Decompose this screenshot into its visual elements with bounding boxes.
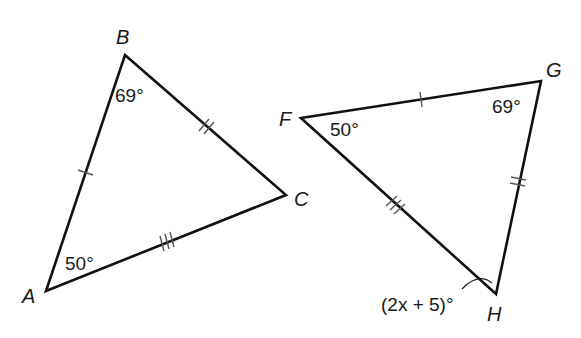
angle-label-b: 69° [115,85,144,106]
triangle-abc: B A C 69° 50° [21,26,309,307]
vertex-label-b: B [116,26,129,48]
vertex-label-h: H [487,303,502,325]
angle-label-h: (2x + 5)° [381,294,454,315]
tick-fg [420,92,422,107]
vertex-label-g: G [546,59,562,81]
vertex-label-a: A [21,285,35,307]
angle-label-a: 50° [65,253,94,274]
vertex-label-c: C [294,188,309,210]
tick-gh [510,177,526,186]
angle-label-g: 69° [492,96,521,117]
congruent-triangles-diagram: B A C 69° 50° F G H 50° 69° (2x + 5)° [0,0,581,338]
vertex-label-f: F [279,108,293,130]
tick-ca [160,232,174,251]
angle-label-f: 50° [330,119,359,140]
triangle-fgh: F G H 50° 69° (2x + 5)° [279,59,562,325]
